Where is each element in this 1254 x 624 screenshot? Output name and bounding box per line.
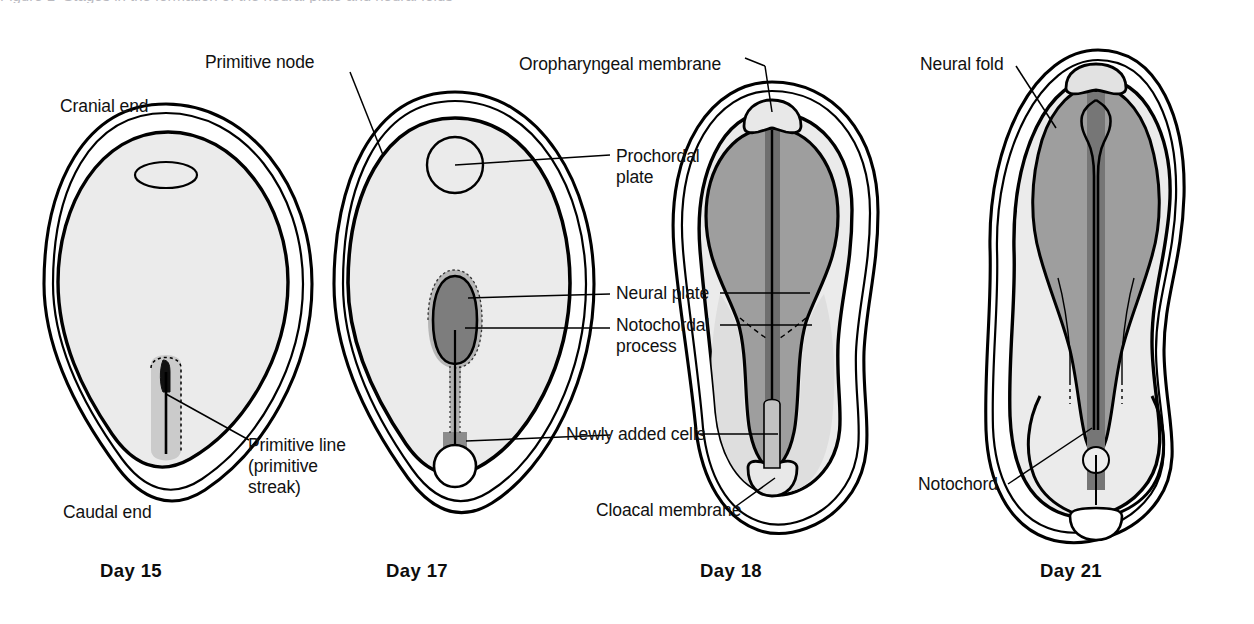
day-label-day18: Day 18 <box>700 560 762 582</box>
panel-day21 <box>986 50 1184 542</box>
oropharyngeal-membrane-day18 <box>744 100 801 133</box>
label-cloacal-membrane: Cloacal membrane <box>596 500 741 521</box>
cloacal-membrane-day17 <box>434 445 476 487</box>
panel-day17 <box>334 92 610 513</box>
label-notochord: Notochord <box>918 474 998 495</box>
label-primitive-node: Primitive node <box>205 52 314 73</box>
oropharyngeal-membrane-day21 <box>1066 64 1126 94</box>
leader-oropharyngeal-membrane-tail-day18 <box>745 58 765 66</box>
label-primitive-line: Primitive line (primitive streak) <box>248 435 346 498</box>
day-label-day21: Day 21 <box>1040 560 1102 582</box>
label-notochordal-process: Notochordal process <box>616 315 709 357</box>
label-neural-fold: Neural fold <box>920 54 1004 75</box>
day-label-day15: Day 15 <box>100 560 162 582</box>
label-newly-added-cells: Newly added cells <box>566 424 705 445</box>
label-caudal-end: Caudal end <box>63 502 152 523</box>
day-label-day17: Day 17 <box>386 560 448 582</box>
leader-neural-fold-day21 <box>1016 66 1056 128</box>
diagram-canvas <box>0 0 1254 624</box>
label-cranial-end: Cranial end <box>60 96 148 117</box>
label-neural-plate: Neural plate <box>616 283 709 304</box>
label-prochordal-plate: Prochordal plate <box>616 146 700 188</box>
embryology-figure: Figure 1 Stages in the formation of the … <box>0 0 1254 624</box>
prochordal-plate-ellipse-day15 <box>135 162 197 188</box>
label-oropharyngeal-membrane: Oropharyngeal membrane <box>519 54 721 75</box>
cloacal-membrane-day21 <box>1070 508 1122 540</box>
